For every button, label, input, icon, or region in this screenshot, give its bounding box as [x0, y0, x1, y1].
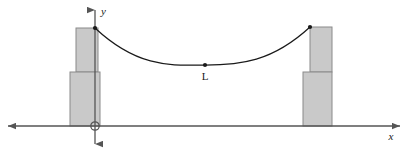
y-axis-label: y — [100, 5, 106, 17]
left-anchor-dot — [93, 26, 97, 30]
cable-group — [95, 27, 310, 65]
catenary-curve — [95, 27, 310, 65]
catenary-cable-figure: y x L — [0, 0, 410, 151]
annotation-points-group — [93, 25, 312, 67]
lowest-point-dot — [203, 63, 207, 67]
right-tower-lower — [303, 72, 332, 126]
right-tower-upper — [310, 27, 332, 72]
labels-group: y x L — [100, 5, 394, 142]
low-point-label: L — [202, 70, 209, 82]
figure-canvas: y x L — [0, 0, 410, 151]
right-anchor-dot — [308, 25, 312, 29]
x-axis-label: x — [388, 130, 394, 142]
